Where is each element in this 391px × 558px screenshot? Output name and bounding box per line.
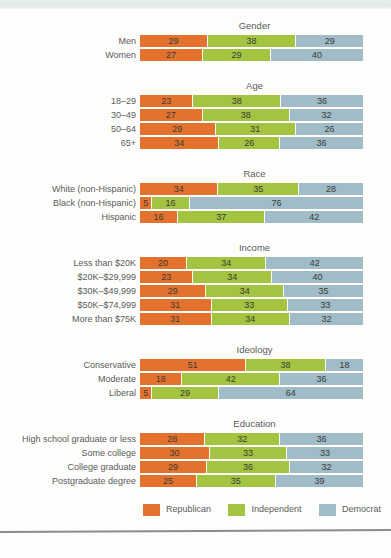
bar-segment-republican: 51 (140, 359, 245, 371)
bar-row: Less than $20K203442 (0, 257, 391, 269)
bar-segment-independent: 35 (217, 183, 298, 195)
bar-segment-republican: 25 (140, 475, 196, 487)
legend-item-independent: Independent (228, 503, 301, 516)
segment-value: 34 (174, 183, 184, 195)
segment-value: 32 (322, 461, 332, 473)
segment-value: 76 (271, 197, 281, 209)
bar-segment-independent: 33 (211, 299, 287, 311)
stacked-bar: 184236 (140, 373, 363, 385)
bar-segment-republican: 16 (140, 211, 177, 223)
segment-value: 36 (317, 433, 327, 445)
stacked-bar: 233440 (140, 271, 363, 283)
row-label: Less than $20K (0, 257, 140, 269)
chart-legend: RepublicanIndependentDemocrat (143, 503, 381, 516)
bar-segment-democrat: 18 (325, 359, 363, 371)
segment-value: 34 (174, 137, 184, 149)
segment-value: 36 (317, 137, 327, 149)
segment-value: 40 (312, 49, 322, 61)
segment-value: 5 (143, 387, 148, 399)
bar-row: 65+342636 (0, 137, 391, 149)
segment-value: 32 (322, 109, 332, 121)
bar-segment-independent: 34 (211, 313, 289, 325)
stacked-bar: 52964 (140, 387, 363, 399)
segment-value: 36 (317, 373, 327, 385)
segment-value: 42 (226, 373, 236, 385)
legend-label: Republican (166, 503, 211, 516)
bar-segment-independent: 16 (151, 197, 188, 209)
row-label: Postgraduate degree (0, 475, 140, 487)
row-label: $20K–$29,999 (0, 271, 140, 283)
bar-segment-republican: 28 (140, 433, 204, 445)
chart-section-education: EducationHigh school graduate or less283… (0, 418, 391, 487)
bar-segment-democrat: 76 (189, 197, 363, 209)
row-label: Liberal (0, 387, 140, 399)
legend-item-republican: Republican (143, 503, 211, 516)
segment-value: 29 (168, 35, 178, 47)
segment-value: 33 (320, 447, 330, 459)
stacked-bar: 203442 (140, 257, 363, 269)
section-title: Income (143, 242, 366, 254)
segment-value: 16 (154, 211, 164, 223)
bar-segment-democrat: 36 (279, 137, 363, 149)
segment-value: 35 (231, 475, 241, 487)
stacked-bar: 293829 (140, 35, 363, 47)
bar-row: Women272940 (0, 49, 391, 61)
segment-value: 23 (161, 95, 171, 107)
row-label: Women (0, 49, 140, 61)
party-id-stacked-bar-chart: GenderMen293829Women272940Age18–29233836… (0, 20, 391, 487)
republican-swatch-icon (143, 504, 160, 516)
segment-value: 33 (244, 299, 254, 311)
bar-row: 30–49273832 (0, 109, 391, 121)
chart-section-race: RaceWhite (non-Hispanic)343528Black (non… (0, 168, 391, 223)
section-title: Race (143, 168, 366, 180)
bar-segment-independent: 33 (209, 447, 286, 459)
segment-value: 34 (240, 285, 250, 297)
bar-segment-republican: 23 (140, 95, 192, 107)
bar-row: Hispanic163742 (0, 211, 391, 223)
row-label: 18–29 (0, 95, 140, 107)
stacked-bar: 313333 (140, 299, 363, 311)
bar-segment-democrat: 29 (295, 35, 363, 47)
bar-segment-independent: 42 (181, 373, 279, 385)
bar-segment-independent: 38 (207, 35, 295, 47)
segment-value: 18 (156, 373, 166, 385)
stacked-bar: 303333 (140, 447, 363, 459)
bar-segment-independent: 36 (206, 461, 289, 473)
bar-segment-democrat: 36 (279, 373, 363, 385)
stacked-bar: 293126 (140, 123, 363, 135)
figure-page: GenderMen293829Women272940Age18–29233836… (0, 0, 391, 558)
democrat-swatch-icon (319, 504, 336, 516)
stacked-bar: 313432 (140, 313, 363, 325)
legend-label: Independent (251, 503, 301, 516)
segment-value: 31 (170, 299, 180, 311)
chart-section-income: IncomeLess than $20K203442$20K–$29,99923… (0, 242, 391, 325)
segment-value: 34 (227, 271, 237, 283)
row-label: Men (0, 35, 140, 47)
bar-row: Conservative513818 (0, 359, 391, 371)
segment-value: 38 (241, 109, 251, 121)
stacked-bar: 253539 (140, 475, 363, 487)
segment-value: 30 (170, 447, 180, 459)
section-title: Gender (143, 20, 366, 32)
bar-segment-democrat: 36 (280, 95, 363, 107)
bar-segment-republican: 31 (140, 299, 211, 311)
bar-row: $30K–$49,999293435 (0, 285, 391, 297)
bar-row: $50K–$74,999313333 (0, 299, 391, 311)
segment-value: 29 (168, 461, 178, 473)
bar-row: Liberal52964 (0, 387, 391, 399)
bar-segment-democrat: 35 (283, 285, 363, 297)
bar-row: Moderate184236 (0, 373, 391, 385)
bar-row: White (non-Hispanic)343528 (0, 183, 391, 195)
bar-row: College graduate293632 (0, 461, 391, 473)
stacked-bar: 293632 (140, 461, 363, 473)
bar-row: Postgraduate degree253539 (0, 475, 391, 487)
legend-item-democrat: Democrat (319, 503, 381, 516)
segment-value: 34 (221, 257, 231, 269)
chart-section-ideology: IdeologyConservative513818Moderate184236… (0, 344, 391, 399)
segment-value: 38 (232, 95, 242, 107)
bar-segment-republican: 27 (140, 49, 202, 61)
bar-segment-republican: 29 (140, 285, 205, 297)
segment-value: 28 (326, 183, 336, 195)
segment-value: 39 (314, 475, 324, 487)
bar-row: More than $75K313432 (0, 313, 391, 325)
